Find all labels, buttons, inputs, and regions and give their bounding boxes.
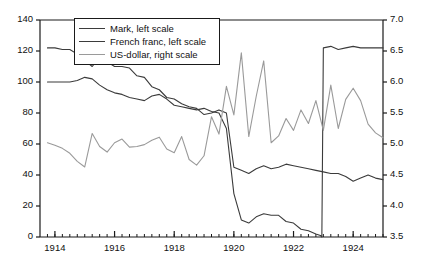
- y-axis-left-tick-label: 20: [0, 199, 33, 210]
- y-axis-right-tick-label: 6.5: [390, 44, 403, 55]
- y-axis-left-tick-label: 0: [0, 230, 33, 241]
- legend-label-us-dollar: US-dollar, right scale: [110, 48, 198, 61]
- y-axis-left-tick-label: 120: [0, 44, 33, 55]
- y-axis-left-tick-label: 40: [0, 168, 33, 179]
- x-axis-tick-label: 1916: [95, 242, 135, 253]
- y-axis-right-tick-label: 5.5: [390, 106, 403, 117]
- x-axis-tick-label: 1914: [35, 242, 75, 253]
- y-axis-left-tick-label: 100: [0, 75, 33, 86]
- legend-item-mark: Mark, left scale: [79, 22, 215, 35]
- series-line-0: [47, 46, 383, 237]
- y-axis-right-tick-label: 4.0: [390, 199, 403, 210]
- x-axis-tick-label: 1922: [274, 242, 314, 253]
- y-axis-right-tick-label: 7.0: [390, 13, 403, 24]
- y-axis-right-tick-label: 5.0: [390, 137, 403, 148]
- legend-swatch-us-dollar: [79, 54, 105, 55]
- y-axis-right-tick-label: 6.0: [390, 75, 403, 86]
- y-axis-right-tick-label: 3.5: [390, 230, 403, 241]
- y-axis-left-tick-label: 140: [0, 13, 33, 24]
- legend-label-mark: Mark, left scale: [110, 22, 174, 35]
- chart-legend: Mark, left scale French franc, left scal…: [74, 18, 220, 65]
- x-axis-tick-label: 1920: [214, 242, 254, 253]
- legend-item-us-dollar: US-dollar, right scale: [79, 48, 215, 61]
- chart-container: Mark, left scale French franc, left scal…: [0, 0, 423, 269]
- legend-label-french-franc: French franc, left scale: [110, 35, 206, 48]
- legend-swatch-mark: [79, 28, 105, 29]
- y-axis-left-tick-label: 60: [0, 137, 33, 148]
- legend-swatch-french-franc: [79, 41, 105, 42]
- x-axis-tick-label: 1918: [154, 242, 194, 253]
- series-line-2: [47, 53, 383, 167]
- y-axis-right-tick-label: 4.5: [390, 168, 403, 179]
- series-line-1: [47, 48, 383, 181]
- x-axis-tick-label: 1924: [333, 242, 373, 253]
- legend-item-french-franc: French franc, left scale: [79, 35, 215, 48]
- y-axis-left-tick-label: 80: [0, 106, 33, 117]
